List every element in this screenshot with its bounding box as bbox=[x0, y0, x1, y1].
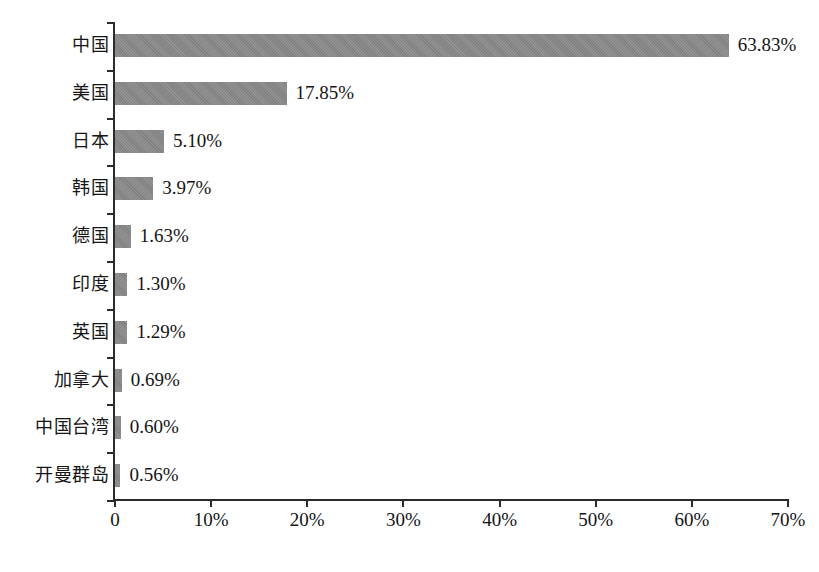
category-label: 日本 bbox=[0, 129, 109, 152]
y-axis-tick bbox=[107, 118, 114, 120]
value-label: 0.60% bbox=[130, 415, 179, 438]
category-label: 印度 bbox=[0, 272, 109, 295]
bar bbox=[115, 416, 121, 439]
bar bbox=[115, 177, 153, 200]
x-axis-tick-label: 20% bbox=[267, 508, 347, 532]
y-axis-tick bbox=[107, 452, 114, 454]
category-label: 开曼群岛 bbox=[0, 463, 109, 486]
category-label: 德国 bbox=[0, 224, 109, 247]
x-axis-tick-label: 60% bbox=[652, 508, 732, 532]
y-axis-tick bbox=[107, 70, 114, 72]
value-label: 5.10% bbox=[173, 129, 222, 152]
bar-row: 英国1.29% bbox=[0, 309, 819, 356]
x-axis-tick-label: 10% bbox=[171, 508, 251, 532]
y-axis-tick bbox=[107, 357, 114, 359]
x-axis-line bbox=[113, 499, 789, 501]
y-axis-tick bbox=[107, 261, 114, 263]
bar-row: 美国17.85% bbox=[0, 70, 819, 117]
y-axis-tick bbox=[107, 22, 114, 24]
bar-row: 印度1.30% bbox=[0, 261, 819, 308]
value-label: 63.83% bbox=[738, 33, 797, 56]
bar bbox=[115, 273, 127, 296]
x-axis-tick-label: 30% bbox=[363, 508, 443, 532]
value-label: 1.30% bbox=[136, 272, 185, 295]
y-axis-tick bbox=[107, 165, 114, 167]
value-label: 1.29% bbox=[136, 320, 185, 343]
value-label: 0.56% bbox=[129, 463, 178, 486]
x-axis-tick bbox=[691, 500, 693, 507]
category-label: 中国台湾 bbox=[0, 415, 109, 438]
bar bbox=[115, 369, 122, 392]
x-axis-tick bbox=[210, 500, 212, 507]
x-axis-tick bbox=[499, 500, 501, 507]
bar-row: 加拿大0.69% bbox=[0, 357, 819, 404]
category-label: 美国 bbox=[0, 81, 109, 104]
bar bbox=[115, 225, 131, 248]
category-label: 加拿大 bbox=[0, 368, 109, 391]
category-label: 中国 bbox=[0, 33, 109, 56]
value-label: 17.85% bbox=[296, 81, 355, 104]
bar-row: 开曼群岛0.56% bbox=[0, 452, 819, 499]
category-label: 英国 bbox=[0, 320, 109, 343]
x-axis-tick-label: 0 bbox=[75, 508, 155, 532]
bar bbox=[115, 130, 164, 153]
value-label: 3.97% bbox=[162, 176, 211, 199]
bar-row: 日本5.10% bbox=[0, 118, 819, 165]
bar bbox=[115, 34, 729, 57]
y-axis-tick bbox=[107, 404, 114, 406]
x-axis-tick-label: 50% bbox=[556, 508, 636, 532]
x-axis-tick-label: 70% bbox=[748, 508, 819, 532]
x-axis-tick bbox=[114, 500, 116, 507]
x-axis-tick bbox=[595, 500, 597, 507]
bar bbox=[115, 82, 287, 105]
y-axis-tick bbox=[107, 213, 114, 215]
x-axis-tick bbox=[306, 500, 308, 507]
bar bbox=[115, 321, 127, 344]
bar-chart: 中国63.83%美国17.85%日本5.10%韩国3.97%德国1.63%印度1… bbox=[0, 0, 819, 572]
bar-row: 中国63.83% bbox=[0, 22, 819, 69]
value-label: 0.69% bbox=[131, 368, 180, 391]
bar bbox=[115, 464, 120, 487]
x-axis-tick bbox=[402, 500, 404, 507]
y-axis-tick bbox=[107, 500, 114, 502]
x-axis-tick bbox=[787, 500, 789, 507]
x-axis-tick-label: 40% bbox=[460, 508, 540, 532]
category-label: 韩国 bbox=[0, 176, 109, 199]
value-label: 1.63% bbox=[140, 224, 189, 247]
bar-row: 中国台湾0.60% bbox=[0, 404, 819, 451]
y-axis-tick bbox=[107, 309, 114, 311]
bar-row: 韩国3.97% bbox=[0, 165, 819, 212]
bar-row: 德国1.63% bbox=[0, 213, 819, 260]
